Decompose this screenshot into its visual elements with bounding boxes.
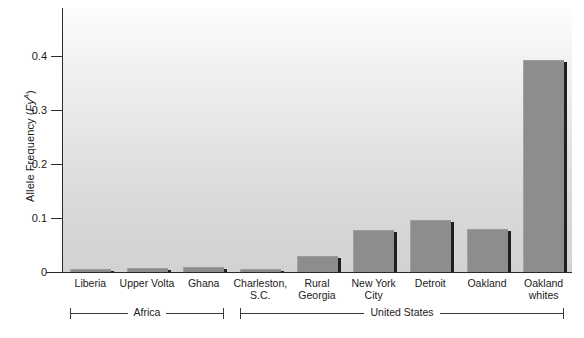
group-bracket-label-text: Africa (128, 306, 167, 318)
bar (523, 60, 564, 272)
group-bracket-label: United States (240, 305, 564, 320)
x-axis-category-label-line: Ghana (171, 277, 236, 289)
x-axis-category-label-line: Upper Volta (115, 277, 180, 289)
x-axis-category-label-line: S.C. (228, 289, 293, 301)
bar (183, 267, 224, 272)
x-axis-category-label: RuralGeorgia (285, 277, 350, 301)
group-bracket-label: Africa (70, 305, 224, 320)
bar (297, 256, 338, 272)
x-axis-category-label-line: Georgia (285, 289, 350, 301)
x-axis-category-label-line: Rural (285, 277, 350, 289)
bar (467, 229, 508, 272)
bar (70, 269, 111, 272)
x-axis-category-label: Oakland (455, 277, 520, 289)
bar (240, 269, 281, 272)
x-axis-category-label: Upper Volta (115, 277, 180, 289)
group-bracket: Africa (70, 306, 224, 320)
group-bracket-label-text: United States (364, 306, 439, 318)
x-axis-category-label-line: Oakland (511, 277, 576, 289)
x-axis-category-label: Charleston,S.C. (228, 277, 293, 301)
x-axis-category-label-line: New York (341, 277, 406, 289)
x-axis-category-label: Oaklandwhites (511, 277, 576, 301)
bar (353, 230, 394, 272)
x-axis-category-label-line: Charleston, (228, 277, 293, 289)
x-axis-category-label-line: City (341, 289, 406, 301)
bar-chart-figure: Allele Frequency (FyA) 00.10.20.30.4 Lib… (0, 0, 584, 338)
x-axis-category-label-line: whites (511, 289, 576, 301)
x-axis-category-label-line: Liberia (58, 277, 123, 289)
x-axis-category-label: Liberia (58, 277, 123, 289)
x-axis-category-label: Detroit (398, 277, 463, 289)
bar (410, 220, 451, 272)
x-axis-category-label: New YorkCity (341, 277, 406, 301)
bar (127, 268, 168, 272)
x-axis-category-label-line: Oakland (455, 277, 520, 289)
x-axis-category-label-line: Detroit (398, 277, 463, 289)
x-axis-category-label: Ghana (171, 277, 236, 289)
group-bracket: United States (240, 306, 564, 320)
